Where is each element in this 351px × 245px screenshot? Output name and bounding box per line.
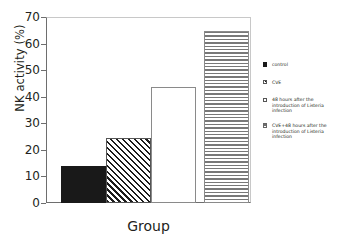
y-tick-label-60: 60 [0, 38, 40, 50]
y-tick-label-50: 50 [0, 64, 40, 76]
bar-control[interactable] [61, 166, 106, 203]
y-tick-label-20: 20 [0, 144, 40, 156]
legend: control CVE 48 hours after the introduct… [263, 62, 351, 149]
legend-item-cve-48h-listeria[interactable]: CVE+48 hours after the introduction of L… [263, 123, 351, 140]
y-tick-label-10: 10 [0, 170, 40, 182]
y-tick-mark-0 [41, 203, 46, 204]
legend-label-cve: CVE [272, 80, 351, 86]
y-tick-label-0: 0 [0, 197, 40, 209]
legend-item-48h-listeria[interactable]: 48 hours after the introduction of Liste… [263, 97, 351, 114]
legend-swatch-hstripe-icon [263, 123, 267, 127]
bar-cve[interactable] [106, 138, 151, 203]
chart-root: NK activity (%) 70 60 50 40 30 20 10 0 [0, 0, 351, 245]
legend-swatch-solid-icon [263, 62, 267, 66]
legend-item-cve[interactable]: CVE [263, 80, 351, 86]
legend-label-48h-line3: infection [272, 108, 351, 114]
bar-48h-listeria[interactable] [151, 87, 196, 203]
x-axis-title: Group [46, 218, 251, 234]
legend-item-control[interactable]: control [263, 62, 351, 68]
plot-area: NK activity (%) 70 60 50 40 30 20 10 0 [0, 0, 258, 245]
bar-cve-48h-listeria[interactable] [204, 31, 249, 203]
legend-swatch-empty-icon [263, 98, 267, 102]
y-tick-label-30: 30 [0, 117, 40, 129]
y-tick-label-40: 40 [0, 91, 40, 103]
y-tick-label-70: 70 [0, 11, 40, 23]
legend-swatch-diagonal-icon [263, 80, 267, 84]
legend-label-control: control [272, 62, 351, 68]
legend-label-cve48h-line3: infection [272, 134, 351, 140]
y-axis-ticks: 70 60 50 40 30 20 10 0 [0, 0, 46, 221]
bar-series [47, 18, 250, 203]
